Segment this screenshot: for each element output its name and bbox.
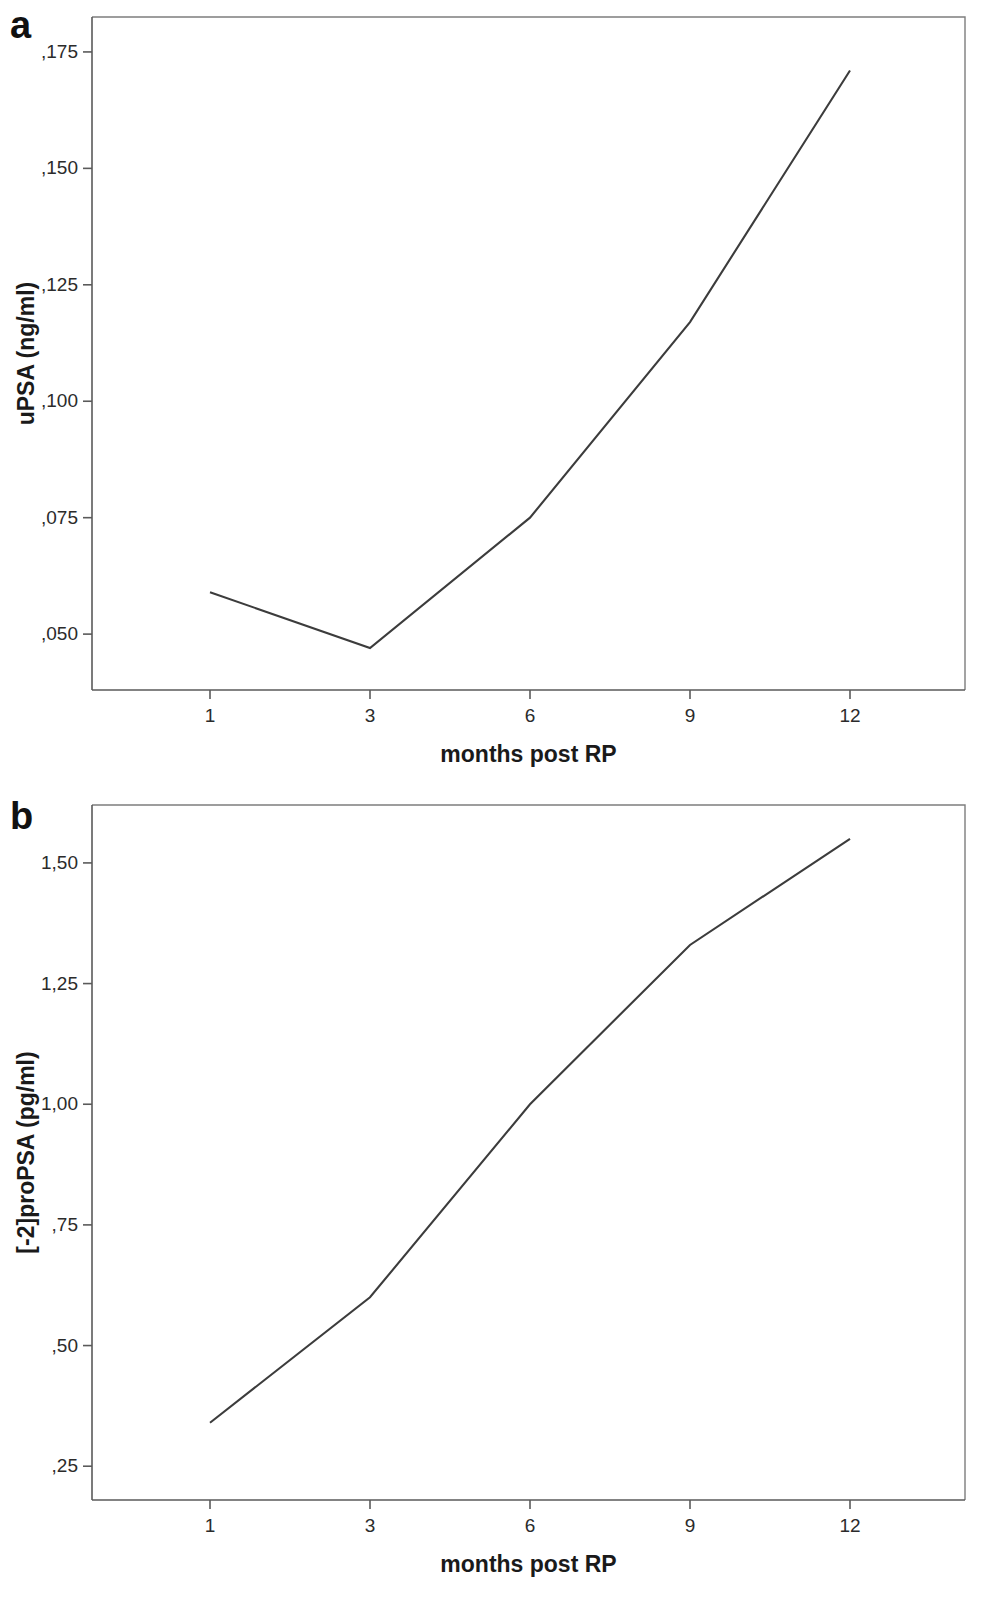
x-axis-tick-label: 1: [205, 705, 216, 726]
plot-frame: [92, 805, 965, 1500]
y-axis-tick-label: ,175: [41, 41, 78, 62]
panel-b: b 1,501,251,00,75,50,25136912months post…: [0, 785, 997, 1613]
y-axis-tick-label: 1,25: [41, 973, 78, 994]
panel-a: a ,175,150,125,100,075,050136912months p…: [0, 0, 997, 785]
panel-b-plot: 1,501,251,00,75,50,25136912months post R…: [0, 785, 997, 1613]
x-axis-tick-label: 12: [839, 1515, 860, 1536]
data-series-line: [210, 71, 850, 649]
panel-a-plot: ,175,150,125,100,075,050136912months pos…: [0, 0, 997, 785]
plot-frame: [92, 17, 965, 690]
y-axis-tick-label: 1,50: [41, 852, 78, 873]
y-axis-tick-label: ,075: [41, 507, 78, 528]
x-axis-title: months post RP: [440, 1551, 616, 1577]
x-axis-tick-label: 12: [839, 705, 860, 726]
y-axis-tick-label: ,50: [52, 1335, 78, 1356]
y-axis-tick-label: ,25: [52, 1455, 78, 1476]
y-axis-tick-label: ,050: [41, 623, 78, 644]
y-axis-tick-label: ,100: [41, 390, 78, 411]
y-axis-tick-label: ,125: [41, 274, 78, 295]
y-axis-tick-label: 1,00: [41, 1093, 78, 1114]
x-axis-tick-label: 9: [685, 705, 696, 726]
y-axis-title: uPSA (ng/ml): [13, 282, 39, 426]
x-axis-tick-label: 6: [525, 705, 536, 726]
x-axis-tick-label: 3: [365, 1515, 376, 1536]
y-axis-tick-label: ,150: [41, 157, 78, 178]
x-axis-tick-label: 9: [685, 1515, 696, 1536]
x-axis-title: months post RP: [440, 741, 616, 767]
x-axis-tick-label: 1: [205, 1515, 216, 1536]
data-series-line: [210, 839, 850, 1423]
y-axis-tick-label: ,75: [52, 1214, 78, 1235]
y-axis-title: [-2]proPSA (pg/ml): [13, 1051, 39, 1253]
x-axis-tick-label: 6: [525, 1515, 536, 1536]
x-axis-tick-label: 3: [365, 705, 376, 726]
